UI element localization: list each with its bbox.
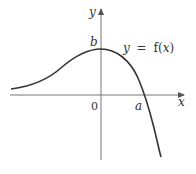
equation-lhs: y bbox=[122, 41, 130, 55]
equation-eq: = bbox=[137, 41, 147, 55]
x-intercept-label: a bbox=[135, 99, 142, 113]
function-graph: y x 0 b a y = f(x) bbox=[0, 0, 196, 174]
y-intercept-label: b bbox=[90, 35, 98, 49]
equation-f: f( bbox=[154, 41, 163, 55]
x-axis-label: x bbox=[178, 95, 185, 109]
origin-label: 0 bbox=[91, 100, 98, 113]
equation-label: y = f(x) bbox=[122, 41, 174, 55]
equation-close: ) bbox=[169, 41, 174, 55]
y-axis-label: y bbox=[88, 5, 96, 19]
